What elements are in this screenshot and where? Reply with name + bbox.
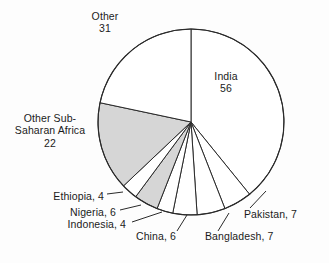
slice-label-china: China, 6 [136, 230, 206, 242]
leader-line-china [177, 215, 187, 231]
slice-label-other: Other 31 [70, 10, 140, 35]
leader-line-indonesia [132, 212, 162, 222]
leader-line-bangladesh [218, 213, 229, 231]
slice-label-indonesia: Indonesia, 4 [26, 218, 126, 230]
slice-label-nigeria: Nigeria, 6 [20, 206, 116, 218]
slice-label-india: India 56 [196, 70, 256, 95]
pie-slices [98, 29, 284, 215]
leader-line-nigeria [120, 205, 141, 210]
slice-label-bangladesh: Bangladesh, 7 [205, 230, 295, 242]
slice-label-pakistan: Pakistan, 7 [244, 208, 329, 220]
pie-chart: Other 31 India 56 Other Sub- Saharan Afr… [0, 0, 329, 263]
slice-label-ethiopia: Ethiopia, 4 [8, 190, 104, 202]
leader-line-ethiopia [107, 192, 123, 194]
slice-label-other-sub-saharan-africa: Other Sub- Saharan Africa 22 [2, 112, 98, 149]
leader-line-pakistan [250, 191, 266, 208]
